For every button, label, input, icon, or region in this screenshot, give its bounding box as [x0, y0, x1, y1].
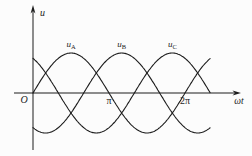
curve-label-uB: uB — [117, 39, 127, 50]
x-axis-label: ωt — [234, 96, 244, 106]
curve-label-uA: uA — [66, 39, 76, 50]
curve-label-uC: uC — [168, 39, 177, 50]
origin-label: O — [20, 94, 27, 105]
y-axis-label: u — [40, 7, 45, 18]
tick-label-2pi: 2π — [180, 95, 190, 106]
three-phase-waveform-figure: u ωt O π 2π uA uB uC — [0, 0, 252, 156]
